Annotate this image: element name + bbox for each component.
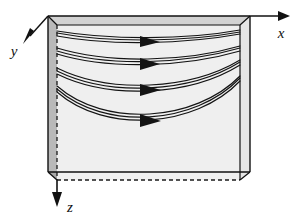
z-axis-label: z (66, 199, 73, 215)
duct-streamline-diagram: x y z (0, 0, 299, 220)
duct-right-face (240, 16, 250, 180)
x-axis (250, 11, 290, 21)
x-axis-label: x (277, 25, 285, 41)
z-axis-arrowhead (52, 192, 62, 207)
y-axis (23, 16, 48, 44)
figure-canvas: x y z (0, 0, 299, 220)
z-axis (52, 180, 62, 207)
y-axis-label: y (9, 43, 18, 59)
x-axis-arrowhead (278, 11, 290, 21)
duct-left-face (48, 16, 57, 180)
y-axis-arrowhead (23, 28, 34, 44)
y-axis-line (30, 16, 48, 36)
duct-top-face (48, 16, 250, 25)
